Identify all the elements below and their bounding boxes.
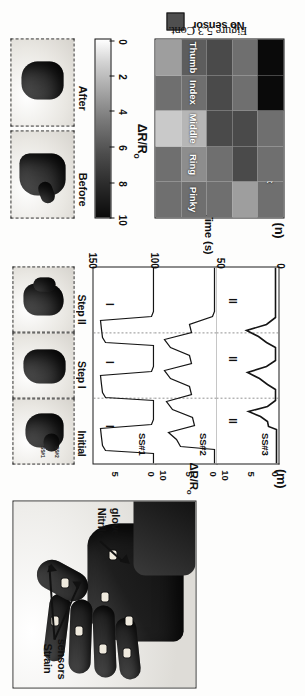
glove-cuff <box>133 500 195 575</box>
colorbar-tick-label-0: 0 <box>116 39 126 44</box>
colorbar-tick <box>109 146 114 147</box>
rotated-scan-board: Strain sensors Nitrile glove (m) SS#1 SS… <box>0 0 305 696</box>
panel-n-caption-after: After <box>76 85 87 110</box>
panel-n-letter: (n) <box>272 222 285 238</box>
heatmap-label-middle: Middle <box>188 113 199 143</box>
plot-ss1-step-mark: I <box>103 302 113 305</box>
ytick-ss2-0: 0 <box>208 471 218 476</box>
heatmap-cell-thumb: Thumb <box>181 39 207 75</box>
nitrile-glove-label-line1: Nitrile <box>95 507 106 537</box>
plot-ss1: SS#1 I I I <box>92 266 156 464</box>
heatmap-cell-ring: Ring <box>181 146 207 182</box>
heatmap-cell <box>206 181 232 217</box>
ytick-ss2-10: 10 <box>158 470 168 480</box>
heatmap-cell <box>232 146 258 182</box>
plot-ss2: SS#2 <box>154 266 217 464</box>
colorbar-tick <box>109 217 114 218</box>
panel-m-photo-step1 <box>12 332 74 398</box>
panel-m-caption-step1: Step I <box>76 361 87 388</box>
heatmap-label-ring: Ring <box>188 153 199 174</box>
figure-caption: Figure 5.3 Cont. <box>168 24 247 37</box>
xtick-150: 150 <box>86 252 96 268</box>
ytick-ss3-10: 10 <box>220 470 230 480</box>
heatmap-cell <box>232 181 258 217</box>
panel-m-ylabel: ΔR/Ro <box>184 462 198 494</box>
ytick-ss1-0: 0 <box>146 471 156 476</box>
heatmap-cell <box>206 146 232 182</box>
colorbar-tick-label-2: 2 <box>116 74 126 79</box>
heatmap-cell <box>232 110 258 146</box>
plot-ss3: SS#3 II II II <box>216 266 279 464</box>
strain-sensor-patch <box>101 592 108 601</box>
heatmap-cell <box>155 39 181 75</box>
panel-n-caption-before: Before <box>76 172 87 206</box>
glove-finger-middle <box>68 599 93 674</box>
plot-ss3-name: SS#3 <box>260 433 270 455</box>
heatmap-cell-index: Index <box>181 75 207 111</box>
heatmap-cell <box>257 110 283 146</box>
plot-ss1-name: SS#1 <box>137 433 147 455</box>
strain-sensors-label-line2: sensors <box>55 638 66 679</box>
heatmap-cell <box>257 146 283 182</box>
colorbar-title: ΔR/Ro <box>132 123 147 158</box>
colorbar-tick-label-10: 10 <box>116 214 126 225</box>
strain-sensors-arrow-head <box>45 562 56 571</box>
colorbar <box>94 38 111 218</box>
ytick-ss3-5: 5 <box>246 471 256 476</box>
plot-ss3-step-mark: II <box>226 418 236 423</box>
heatmap-cell <box>155 75 181 111</box>
ylabel-sub: o <box>184 489 193 494</box>
heatmap-cell <box>206 75 232 111</box>
xtick-0: 0 <box>274 263 284 268</box>
colorbar-title-text: ΔR/R <box>134 123 148 153</box>
ylabel-text: ΔR/R <box>187 462 199 489</box>
plot-ss2-name: SS#2 <box>198 433 208 455</box>
heatmap-cell-middle: Middle <box>181 110 207 146</box>
colorbar-tick-label-6: 6 <box>116 145 126 150</box>
xtick-50: 50 <box>214 257 224 268</box>
ytick-ss3-0: 0 <box>270 471 280 476</box>
heatmap-cell-no-sensor <box>257 39 283 75</box>
strain-sensor-patch <box>125 616 132 625</box>
heatmap: Pinky Ring Middle Index Thumb <box>154 38 284 218</box>
glove-photo-panel: Strain sensors Nitrile glove <box>12 500 196 688</box>
strain-sensor-patch <box>123 648 130 657</box>
heatmap-label-index: Index <box>188 80 199 105</box>
heatmap-cell-pinky: Pinky <box>181 181 207 217</box>
plot-ss1-step-mark: I <box>103 424 113 427</box>
colorbar-tick <box>109 110 114 111</box>
glove-finger-ring <box>92 605 116 678</box>
colorbar-tick <box>109 75 114 76</box>
strain-sensor-patch <box>61 578 68 587</box>
heatmap-cell <box>155 146 181 182</box>
colorbar-tick <box>109 40 114 41</box>
panel-n: (n) Before After 0 2 4 6 <box>6 8 302 244</box>
heatmap-label-thumb: Thumb <box>188 41 199 73</box>
colorbar-tick <box>109 182 114 183</box>
heatmap-cell-no-sensor <box>257 75 283 111</box>
xtick-100: 100 <box>148 252 158 268</box>
heatmap-cell <box>232 39 258 75</box>
heatmap-cell <box>155 110 181 146</box>
panel-m-photo-initial: SS#1 SS#2 <box>12 398 74 464</box>
sensor-tag-ss1: SS#1 <box>39 446 44 457</box>
glove-photo-image: Strain sensors Nitrile glove <box>13 501 195 687</box>
heatmap-cell-wrist: Wrist <box>257 181 283 217</box>
heatmap-label-pinky: Pinky <box>188 187 199 212</box>
plot-ss1-step-mark: I <box>103 360 113 363</box>
panel-m-caption-initial: Initial <box>76 430 87 456</box>
ytick-ss1-5: 5 <box>110 471 120 476</box>
strain-sensors-label-line1: Strain <box>41 643 52 673</box>
figure-page: Strain sensors Nitrile glove (m) SS#1 SS… <box>0 0 305 696</box>
heatmap-cell <box>206 110 232 146</box>
panel-m-photo-step2 <box>12 266 74 332</box>
sensor-tag-ss2: SS#2 <box>53 446 58 457</box>
panel-n-photo-after <box>10 38 74 126</box>
strain-sensor-patch <box>99 644 106 653</box>
panel-n-photo-before <box>10 130 74 218</box>
nitrile-glove-label-line2: glove <box>109 507 120 535</box>
heatmap-cell <box>206 39 232 75</box>
heatmap-cell <box>232 75 258 111</box>
plot-ss3-step-mark: II <box>226 356 236 361</box>
colorbar-tick-label-4: 4 <box>116 109 126 114</box>
